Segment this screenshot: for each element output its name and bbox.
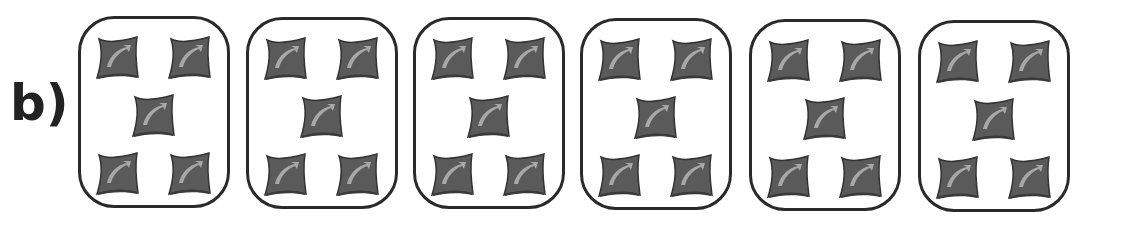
- bag-icon: [333, 36, 381, 82]
- bag-icon: [93, 151, 141, 197]
- bag-icon: [667, 153, 715, 199]
- bag-icon: [764, 154, 812, 200]
- bag-icon: [933, 155, 981, 201]
- bag-icon: [428, 152, 476, 198]
- group-box: [78, 16, 230, 208]
- bag-icon: [1005, 155, 1053, 201]
- bag-icon: [464, 94, 512, 140]
- bag-icon: [165, 35, 213, 81]
- group-box: [749, 19, 901, 211]
- bag-icon: [129, 93, 177, 139]
- bag-icon: [631, 95, 679, 141]
- bag-icon: [333, 152, 381, 198]
- bag-icon: [800, 96, 848, 142]
- bag-icon: [428, 36, 476, 82]
- bag-icon: [969, 97, 1017, 143]
- bag-icon: [836, 38, 884, 84]
- bag-icon: [500, 36, 548, 82]
- bag-icon: [764, 38, 812, 84]
- group-box: [413, 17, 565, 209]
- bag-icon: [93, 35, 141, 81]
- bag-icon: [1005, 39, 1053, 85]
- bag-icon: [667, 37, 715, 83]
- question-label: b): [10, 78, 69, 128]
- bag-icon: [595, 37, 643, 83]
- group-box: [580, 18, 732, 210]
- bag-icon: [933, 39, 981, 85]
- bag-icon: [261, 36, 309, 82]
- bag-icon: [595, 153, 643, 199]
- bag-icon: [297, 94, 345, 140]
- bag-icon: [500, 152, 548, 198]
- bag-icon: [165, 151, 213, 197]
- group-box: [246, 17, 398, 209]
- bag-icon: [261, 152, 309, 198]
- group-box: [918, 20, 1070, 212]
- bag-icon: [836, 154, 884, 200]
